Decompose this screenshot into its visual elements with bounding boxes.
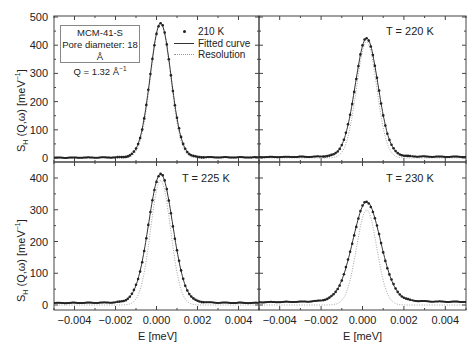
solid-line-icon bbox=[174, 38, 196, 49]
legend-fitted: Fitted curve bbox=[174, 38, 250, 50]
x-axis-label-left: E [meV] bbox=[138, 330, 177, 342]
temp-label-220: T = 220 K bbox=[386, 25, 434, 37]
x-tick-label: 0.002 bbox=[184, 314, 212, 326]
fitted-curve bbox=[54, 174, 259, 303]
fitted-curve bbox=[259, 38, 466, 157]
y-tick-label: 100 bbox=[30, 124, 48, 136]
sample-info-box: MCM-41-S Pore diameter: 18 Å Q = 1.32 Å−… bbox=[60, 25, 140, 63]
legend-points: 210 K bbox=[174, 26, 250, 38]
panel-225k: 0100200300400−0.004−0.0020.0000.0020.004 bbox=[30, 162, 260, 326]
y-tick-label: 400 bbox=[30, 39, 48, 51]
resolution-curve bbox=[259, 210, 466, 305]
pore-diameter: Pore diameter: 18 Å bbox=[61, 39, 139, 63]
x-tick-label: 0.000 bbox=[349, 314, 377, 326]
x-tick-label: 0.004 bbox=[225, 314, 253, 326]
y-tick-label: 300 bbox=[30, 67, 48, 79]
x-axis-label-right: E [meV] bbox=[343, 330, 382, 342]
x-tick-label: 0.000 bbox=[143, 314, 171, 326]
x-tick-label: −0.004 bbox=[58, 314, 92, 326]
x-tick-label: −0.002 bbox=[304, 314, 338, 326]
data-points bbox=[258, 37, 467, 158]
y-tick-label: 400 bbox=[30, 172, 48, 184]
q-value: Q = 1.32 Å−1 bbox=[61, 63, 139, 78]
y-axis-label-bottom: SH (Q,ω) [meV−1] bbox=[14, 219, 29, 302]
y-tick-label: 0 bbox=[42, 299, 48, 311]
dotted-line-icon bbox=[174, 49, 196, 60]
resolution-curve bbox=[259, 42, 466, 158]
series-legend: 210 K Fitted curve Resolution bbox=[174, 26, 250, 61]
x-tick-label: 0.002 bbox=[390, 314, 418, 326]
x-tick-label: −0.002 bbox=[99, 314, 133, 326]
x-tick-label: 0.004 bbox=[432, 314, 460, 326]
y-tick-label: 300 bbox=[30, 204, 48, 216]
resolution-curve bbox=[54, 180, 259, 305]
temp-label-225: T = 225 K bbox=[182, 172, 230, 184]
legend-resolution: Resolution bbox=[174, 49, 250, 61]
panel-220k bbox=[258, 16, 467, 162]
data-points bbox=[258, 201, 467, 304]
y-tick-label: 200 bbox=[30, 96, 48, 108]
temp-label-230: T = 230 K bbox=[386, 172, 434, 184]
y-tick-label: 500 bbox=[30, 11, 48, 23]
panel-230k: −0.004−0.0020.0000.0020.004 bbox=[258, 162, 467, 326]
y-tick-label: 0 bbox=[42, 152, 48, 164]
x-tick-label: −0.004 bbox=[263, 314, 297, 326]
sample-name: MCM-41-S bbox=[61, 27, 139, 39]
y-axis-label-top: SH (Q,ω) [meV−1] bbox=[14, 69, 29, 152]
point-marker-icon bbox=[174, 26, 196, 37]
y-tick-label: 100 bbox=[30, 267, 48, 279]
y-tick-label: 200 bbox=[30, 236, 48, 248]
